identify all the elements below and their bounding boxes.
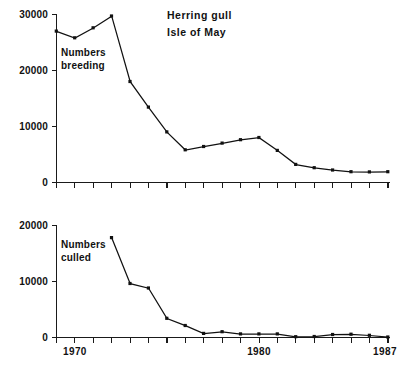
bottom-ytick-label-0: 0: [42, 332, 48, 343]
top-ytick-label-10000: 10000: [19, 121, 48, 132]
bottom-ytick-label-20000: 20000: [19, 220, 48, 231]
top-annotation-line1: Numbers: [61, 47, 106, 58]
top-annotation-line2: breeding: [61, 60, 105, 71]
figure-container: Herring gull Isle of May 0 10000 20000 3…: [0, 0, 398, 366]
bottom-annotation-line2: culled: [61, 252, 91, 263]
xtick-label-1970: 1970: [63, 346, 87, 357]
xtick-label-1987: 1987: [373, 346, 397, 357]
top-ytick-label-30000: 30000: [19, 9, 48, 20]
bottom-ytick-label-10000: 10000: [19, 276, 48, 287]
chart-svg: Herring gull Isle of May 0 10000 20000 3…: [0, 0, 398, 366]
bottom-annotation-line1: Numbers: [61, 239, 106, 250]
top-ytick-label-0: 0: [42, 177, 48, 188]
chart-title-line2: Isle of May: [167, 26, 226, 38]
chart-title-line1: Herring gull: [167, 9, 232, 21]
top-ytick-label-20000: 20000: [19, 65, 48, 76]
xtick-label-1980: 1980: [247, 346, 271, 357]
